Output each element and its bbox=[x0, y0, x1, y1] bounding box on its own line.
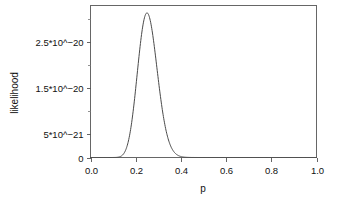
plot-frame bbox=[91, 6, 317, 158]
x-axis-tick-labels: 0.00.20.40.60.81.0 bbox=[85, 165, 324, 176]
y-tick-label: 1.5*10^−20 bbox=[35, 83, 83, 94]
x-tick-label: 0.8 bbox=[265, 165, 278, 176]
x-axis-title: p bbox=[200, 183, 206, 194]
chart-canvas: 0.00.20.40.60.81.0 05*10^−211.5*10^−202.… bbox=[0, 0, 337, 202]
x-tick-label: 0.0 bbox=[85, 165, 98, 176]
y-tick-label: 5*10^−21 bbox=[43, 129, 83, 140]
x-tick-label: 0.4 bbox=[175, 165, 188, 176]
y-axis-tick-labels: 05*10^−211.5*10^−202.5*10^−20 bbox=[35, 37, 83, 164]
y-tick-label: 0 bbox=[78, 153, 83, 164]
likelihood-curve bbox=[91, 13, 317, 158]
y-axis-tick-marks bbox=[87, 43, 91, 159]
likelihood-chart-figure: 0.00.20.40.60.81.0 05*10^−211.5*10^−202.… bbox=[0, 0, 337, 202]
x-tick-label: 0.6 bbox=[220, 165, 233, 176]
y-tick-label: 2.5*10^−20 bbox=[35, 37, 83, 48]
x-axis-tick-marks bbox=[92, 158, 318, 162]
x-tick-label: 1.0 bbox=[311, 165, 324, 176]
y-axis-title: likelihood bbox=[9, 72, 20, 114]
x-tick-label: 0.2 bbox=[130, 165, 143, 176]
